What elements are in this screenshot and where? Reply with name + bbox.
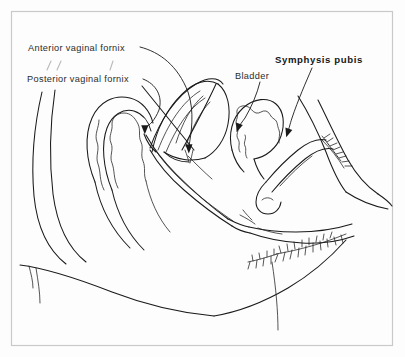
buttock-contour <box>20 265 214 316</box>
sacrum-contour <box>33 90 86 264</box>
pubic-hair <box>248 134 352 269</box>
leader-symphysis-pubis <box>285 68 312 137</box>
label-symphysis-pubis: Symphysis pubis <box>275 55 363 65</box>
label-posterior-vaginal-fornix: Posterior vaginal fornix <box>27 75 129 84</box>
figure-page: .ink { fill: none; stroke: #1a1a1a; stro… <box>0 0 405 357</box>
rectum <box>87 97 170 250</box>
abdominal-wall <box>298 96 392 209</box>
labia <box>214 210 354 316</box>
bladder-organ <box>230 99 283 179</box>
label-bladder: Bladder <box>235 72 269 81</box>
symphysis-pubis-bone <box>256 139 333 214</box>
label-anterior-vaginal-fornix: Anterior vaginal fornix <box>28 44 125 53</box>
uterus <box>152 81 229 163</box>
stray-tick-marks <box>47 61 113 70</box>
